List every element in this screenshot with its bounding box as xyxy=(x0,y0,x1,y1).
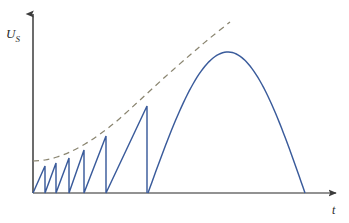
y-axis-label-text: U xyxy=(6,26,15,41)
sawtooth-path xyxy=(33,106,147,193)
y-axis-label: US xyxy=(6,26,20,44)
y-axis-label-subscript: S xyxy=(15,34,20,44)
sawtooth-waveform xyxy=(33,106,147,193)
x-axis-label-text: t xyxy=(332,203,335,217)
figure-root: US t xyxy=(0,0,349,223)
sine-hump-group xyxy=(148,52,305,193)
sine-hump xyxy=(148,52,305,193)
waveform-plot xyxy=(0,0,349,223)
x-axis-label: t xyxy=(332,203,335,218)
